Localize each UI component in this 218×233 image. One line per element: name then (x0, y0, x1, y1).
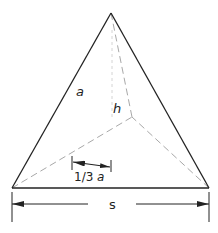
third-dimension: 1/3 a (72, 156, 111, 184)
third-var-label: a (97, 170, 104, 184)
tetrahedron-diagram: 1/3 a s a h (0, 0, 218, 233)
third-fraction-label: 1/3 (74, 170, 93, 184)
edge-label: a (76, 84, 84, 99)
hidden-edge-right (132, 117, 209, 188)
hidden-edge-left (12, 117, 132, 188)
side-label: s (109, 197, 116, 212)
edge-left (12, 13, 111, 188)
third-arrow-line (73, 162, 110, 167)
side-dimension: s (12, 192, 209, 222)
height-label: h (113, 101, 121, 116)
edge-right (111, 13, 209, 188)
